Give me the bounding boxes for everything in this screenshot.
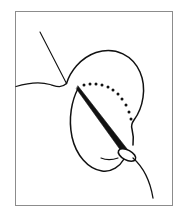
- needle-path-dot: [95, 83, 98, 86]
- needle-path-dot: [130, 118, 133, 121]
- needle-path-dot: [112, 89, 115, 92]
- needle-path-dot: [128, 111, 131, 114]
- illustration-figure: Surgical needle and suture passing throu…: [0, 0, 181, 218]
- needle-path-dot: [101, 84, 104, 87]
- needle-path-dot: [89, 83, 92, 86]
- illustration-canvas: [0, 0, 181, 218]
- needle-path-dot: [121, 98, 124, 101]
- needle-path-dot: [83, 84, 86, 87]
- needle-path-dot: [117, 93, 120, 96]
- canvas-background: [0, 0, 181, 218]
- needle-path-dot: [125, 104, 128, 107]
- needle-path-dot: [107, 86, 110, 89]
